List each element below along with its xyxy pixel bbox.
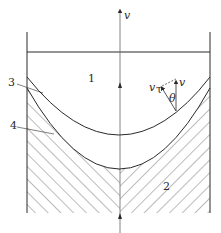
crystal-growth-diagram: v 1 2 3 4 v v τ θ [0,0,221,233]
interface-4-label: 4 [10,119,17,132]
region-1-label: 1 [88,72,95,85]
tangential-velocity-label: v [149,81,156,94]
axis-velocity-label: v [124,9,131,22]
local-velocity-label: v [179,76,186,89]
tangential-subscript: τ [156,83,162,96]
leader-3 [17,84,43,93]
angle-theta-label: θ [169,92,176,105]
interface-3-label: 3 [8,76,15,89]
axis-bottom-arrow-icon [118,213,122,219]
region-2-label: 2 [163,180,170,193]
axis-mid-arrow-icon [118,82,122,88]
